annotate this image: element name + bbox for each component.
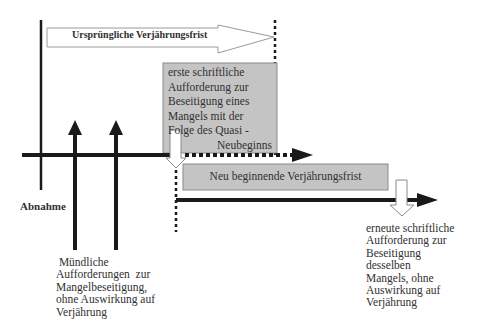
first-written-request-text: erste schriftliche Aufforderung zur Bese… [168, 65, 276, 153]
oral-requests-line-2: Aufforderungen zur [56, 268, 176, 280]
repeated-request-line-7: Verjährung [366, 296, 476, 308]
repeated-written-request-text: erneute schriftliche Aufforderung zur Be… [366, 222, 476, 309]
first-request-line-5: Folge des Quasi - [168, 123, 276, 138]
first-request-line-4: Mangels mit der [168, 109, 276, 124]
oral-requests-line-3: Mangelbeseitigung, [56, 281, 176, 293]
first-request-line-1: erste schriftliche [168, 65, 276, 80]
repeated-request-line-5: Mangels, ohne [366, 272, 476, 284]
original-period-label: Ursprüngliche Verjährungsfrist [72, 29, 262, 40]
main-timeline-arrowhead-icon [292, 148, 313, 162]
oral-requests-text: Mündliche Aufforderungen zur Mangelbesei… [56, 256, 176, 318]
new-period-label: Neu beginnende Verjährungsfrist [183, 170, 388, 182]
oral-request-arrow-1-head-icon [68, 120, 82, 135]
first-request-line-2: Aufforderung zur [168, 80, 276, 95]
new-timeline-arrowhead-icon [417, 193, 438, 207]
repeated-request-line-1: erneute schriftliche [366, 222, 476, 234]
first-request-line-6: Neubeginns [168, 138, 276, 153]
acceptance-label: Abnahme [20, 200, 66, 212]
repeated-request-line-3: Beseitigung [366, 247, 476, 259]
oral-request-arrow-2-head-icon [109, 120, 123, 135]
oral-requests-line-4: ohne Auswirkung auf [56, 293, 176, 305]
oral-requests-line-5: Verjährung [56, 306, 176, 318]
oral-requests-line-1: Mündliche [56, 256, 176, 268]
repeated-request-line-2: Aufforderung zur [366, 234, 476, 246]
repeated-request-line-4: desselben [366, 259, 476, 271]
first-request-line-3: Beseitigung eines [168, 94, 276, 109]
repeated-request-line-6: Auswirkung auf [366, 284, 476, 296]
